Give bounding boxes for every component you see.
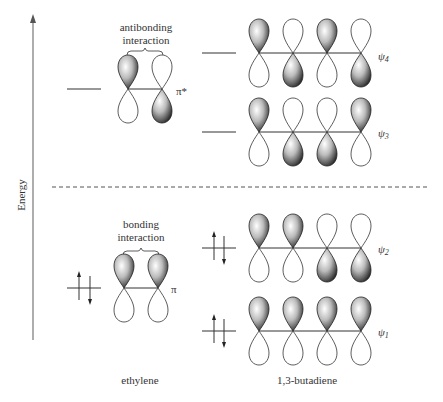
bonding-label-2: interaction [117, 231, 165, 243]
spin-down-icon [222, 259, 226, 265]
spin-down-icon [222, 342, 226, 348]
energy-axis: Energy [15, 14, 36, 340]
orbital-label: ψ1 [378, 326, 389, 340]
arrow-up-icon [30, 14, 36, 23]
axis-label: Energy [15, 179, 27, 211]
ethylene-label: ethylene [121, 374, 158, 386]
spin-up-icon [212, 231, 216, 237]
mo-diagram: Energy antibonding interaction π* bondin… [0, 0, 443, 402]
orbital-label: ψ4 [378, 50, 389, 64]
ethylene-pi: bonding interaction π [67, 218, 177, 322]
antibonding-label-1: antibonding [120, 21, 173, 33]
butadiene-psi2: ψ2 [202, 214, 389, 282]
orbital-label: π* [176, 85, 187, 97]
spin-down-icon [88, 299, 92, 305]
orbital-label: ψ2 [378, 243, 389, 257]
ethylene-pi-star: antibonding interaction π* [67, 21, 187, 123]
brace [127, 48, 163, 55]
butadiene-psi4: ψ4 [202, 19, 389, 87]
butadiene-psi3: ψ3 [202, 98, 389, 166]
butadiene-label: 1,3-butadiene [277, 374, 337, 386]
orbital-label: ψ3 [378, 127, 389, 141]
antibonding-label-2: interaction [122, 34, 170, 46]
spin-up-icon [212, 314, 216, 320]
brace [123, 248, 159, 255]
orbital-label: π [171, 283, 177, 295]
bonding-label-1: bonding [123, 218, 160, 230]
butadiene-psi1: ψ1 [202, 297, 389, 365]
spin-up-icon [77, 271, 81, 277]
